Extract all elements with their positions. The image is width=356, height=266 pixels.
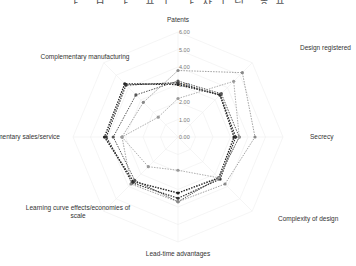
data-point-marker [223,182,226,185]
axis-label: Complementary manufacturing [41,53,130,61]
tick-label: 1.00 [179,117,190,123]
axis-label: Complementary sales/service [0,133,60,141]
axis-label: Learning curve effects/economies of [26,204,130,212]
tick-label: 0.00 [179,134,190,140]
tick-label: 5.00 [179,47,190,53]
data-point-marker [142,101,145,104]
series-line [106,83,236,199]
axis-label: Secrecy [310,133,334,141]
axis-label: Complexity of design [278,215,339,223]
axis-label: scale [70,212,86,219]
axis-label: Lead-time advantages [146,250,211,258]
data-point-marker [157,116,160,119]
data-point-marker [176,69,179,72]
data-point-marker [220,92,223,95]
grid-spoke [104,63,178,137]
radar-chart: 0.001.002.003.004.005.006.00PatentsDesig… [0,0,356,266]
data-point-marker [112,135,115,138]
grid-spoke [178,137,252,211]
data-point-marker [176,169,179,172]
data-point-marker [124,83,127,86]
data-point-marker [234,135,237,138]
axis-label: Patents [167,16,190,23]
data-point-marker [129,182,132,185]
data-point-marker [105,135,108,138]
grid-spoke [104,137,178,211]
data-point-marker [133,179,136,182]
data-point-marker [176,191,179,194]
tick-label: 6.00 [179,29,190,35]
data-point-marker [238,135,241,138]
data-point-marker [176,200,179,203]
data-point-marker [147,165,150,168]
data-point-marker [134,93,137,96]
data-point-marker [120,135,123,138]
data-point-marker [176,197,179,200]
axis-label: Design registered [300,44,351,52]
tick-label: 2.00 [179,99,190,105]
data-point-marker [176,79,179,82]
data-point-marker [232,80,235,83]
tick-label: 4.00 [179,64,190,70]
data-point-marker [241,71,244,74]
data-point-marker [253,135,256,138]
data-point-marker [176,97,179,100]
data-point-marker [217,176,220,179]
